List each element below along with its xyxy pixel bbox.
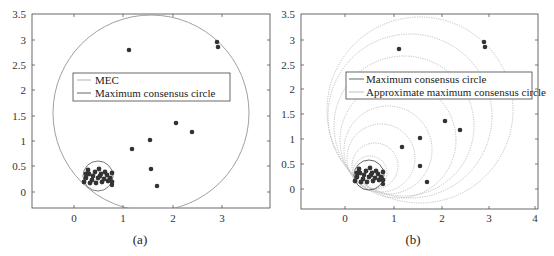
x-tick: 0 [342,212,348,224]
axes-frame-a [32,14,270,208]
x-tick: 3 [219,212,225,224]
legend-label-approx: Approximate maximum consensus circle [366,86,546,98]
y-tick: 2.5 [12,59,26,71]
figure: 3.5 3 2.5 2 1.5 1 0.5 0 0 1 2 3 [0,0,554,256]
caption-b: (b) [405,232,420,247]
x-tick: 2 [170,212,176,224]
inlier-cluster-b [353,166,386,187]
y-tick: 3 [290,34,296,46]
y-tick: 0.5 [12,160,26,172]
tick-marks-a [32,14,270,208]
y-tick: 1.5 [12,110,26,122]
y-tick: 0 [290,183,296,195]
legend-label-max-consensus: Maximum consensus circle [366,73,486,85]
x-tick: 3 [486,212,492,224]
legend-label-max-consensus: Maximum consensus circle [95,87,215,99]
y-tick: 2 [290,83,296,95]
x-tick: 4 [532,212,538,224]
legend-a: MEC Maximum consensus circle [73,73,230,101]
x-tick-labels-b: 0 1 2 3 4 [342,212,538,224]
y-tick: 3.5 [12,8,26,20]
x-tick: 1 [120,212,126,224]
y-tick: 1 [290,133,296,145]
outliers-b [397,40,488,185]
legend-b: Maximum consensus circle Approximate max… [346,72,546,99]
y-tick: 2.5 [281,59,295,71]
axes-frame-b [301,14,538,209]
panel-b: 3.5 3 2.5 2 1.5 1 0.5 0 0 1 2 3 4 [281,8,546,247]
legend-label-mec: MEC [95,74,119,86]
y-tick: 0.5 [281,158,295,170]
y-tick: 1 [21,135,27,147]
y-tick: 0 [21,186,27,198]
y-tick: 1.5 [281,108,295,120]
x-tick: 0 [71,212,77,224]
y-tick-labels-a: 3.5 3 2.5 2 1.5 1 0.5 0 [12,8,26,198]
panel-a: 3.5 3 2.5 2 1.5 1 0.5 0 0 1 2 3 [12,8,270,247]
y-tick: 3.5 [281,8,295,20]
x-tick: 1 [391,212,397,224]
outliers-a [127,40,221,189]
y-tick: 3 [21,34,27,46]
y-tick: 2 [21,84,27,96]
x-tick-labels-a: 0 1 2 3 [71,212,225,224]
inlier-cluster-a [82,167,115,188]
tick-marks-b [301,14,538,209]
y-tick-labels-b: 3.5 3 2.5 2 1.5 1 0.5 0 [281,8,295,195]
caption-a: (a) [133,232,147,247]
x-tick: 2 [439,212,445,224]
